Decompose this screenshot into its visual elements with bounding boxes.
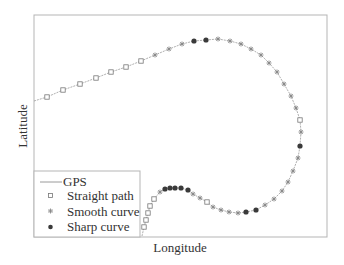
smooth-curve-marker [227, 210, 232, 215]
sharp-curve-marker [167, 185, 172, 190]
smooth-curve-marker [294, 106, 299, 111]
smooth-curve-marker [236, 211, 241, 216]
smooth-curve-marker [167, 47, 172, 52]
smooth-curve-marker [291, 169, 296, 174]
straight-path-marker [142, 225, 146, 229]
legend-gps-label: GPS [63, 174, 87, 189]
straight-path-marker [61, 88, 65, 92]
legend-sharp-curve-label: Sharp curve [67, 219, 130, 234]
smooth-curve-marker [180, 42, 185, 47]
straight-path-marker [152, 197, 156, 201]
straight-path-marker [94, 76, 98, 80]
sharp-curve-marker [297, 143, 302, 148]
y-axis-label: Latitude [15, 104, 30, 148]
smooth-curve-marker [259, 53, 264, 58]
smooth-curve-marker [280, 189, 285, 194]
smooth-curve-marker [198, 196, 203, 201]
straight-path-marker [45, 95, 49, 99]
smooth-curve-marker [228, 39, 233, 44]
straight-path-marker [124, 65, 128, 69]
smooth-curve-marker [191, 192, 196, 197]
legend-smooth-curve-label: Smooth curve [67, 204, 140, 219]
straight-path-marker [146, 211, 150, 215]
smooth-curve-marker [216, 37, 221, 42]
straight-path-marker [139, 59, 143, 63]
legend-straight-path-icon [49, 194, 53, 198]
sharp-curve-marker [178, 185, 183, 190]
smooth-curve-marker [299, 130, 304, 135]
sharp-curve-marker [172, 185, 177, 190]
straight-path-marker [144, 218, 148, 222]
smooth-curve-marker [219, 208, 224, 213]
smooth-curve-marker [153, 53, 158, 58]
sharp-curve-marker [203, 37, 208, 42]
legend: GPS Straight path Smooth curve Sharp cur… [34, 171, 140, 237]
sharp-curve-marker [185, 187, 190, 192]
straight-path-marker [78, 82, 82, 86]
smooth-curve-marker [263, 203, 268, 208]
smooth-curve-marker [211, 205, 216, 210]
straight-path-marker [109, 70, 113, 74]
legend-sharp-curve-icon [48, 225, 53, 230]
sharp-curve-marker [191, 38, 196, 43]
sharp-curve-marker [162, 186, 167, 191]
smooth-curve-marker [289, 94, 294, 99]
smooth-curve-marker [267, 61, 272, 66]
smooth-curve-marker [275, 70, 280, 75]
smooth-curve-marker [158, 190, 163, 195]
straight-path-marker [148, 204, 152, 208]
sharp-curve-marker [253, 207, 258, 212]
smooth-curve-marker [282, 82, 287, 87]
chart: GPS Straight path Smooth curve Sharp cur… [0, 0, 344, 265]
straight-path-marker [205, 200, 209, 204]
sharp-curve-marker [243, 209, 248, 214]
smooth-curve-marker [239, 42, 244, 47]
smooth-curve-marker [272, 197, 277, 202]
smooth-curve-marker [296, 156, 301, 161]
smooth-curve-marker [286, 180, 291, 185]
smooth-curve-marker [249, 47, 254, 52]
legend-smooth-curve-icon [48, 209, 53, 214]
x-axis-label: Longitude [153, 240, 207, 255]
legend-straight-path-label: Straight path [67, 188, 134, 203]
straight-path-marker [298, 118, 302, 122]
